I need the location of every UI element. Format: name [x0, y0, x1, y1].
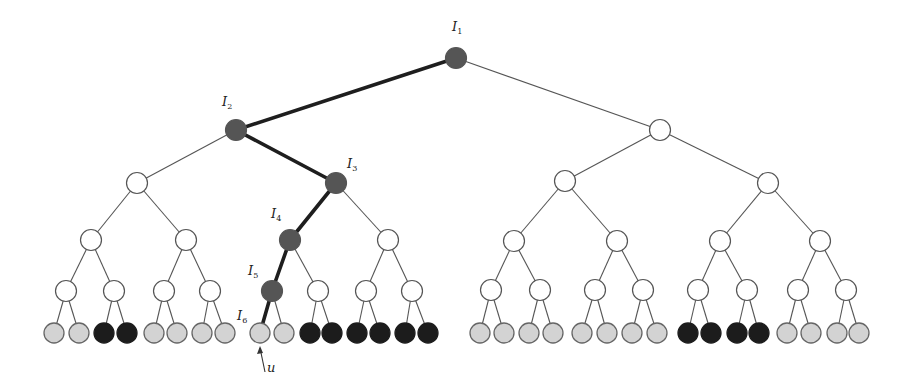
leaf-node-light	[144, 323, 164, 343]
leaf-node-light	[192, 323, 212, 343]
internal-node	[585, 280, 606, 301]
internal-node	[607, 231, 628, 252]
path-node	[226, 120, 247, 141]
tree-edge	[768, 183, 820, 241]
tree-edge	[137, 183, 186, 240]
internal-node	[356, 281, 377, 302]
leaf-node-light	[801, 323, 821, 343]
node-label-I1: I1	[451, 19, 462, 36]
internal-node	[154, 281, 175, 302]
path-node	[262, 281, 283, 302]
internal-node	[56, 281, 77, 302]
internal-node	[402, 281, 423, 302]
tree-edge	[565, 181, 617, 241]
leaf-node-dark	[322, 323, 342, 343]
leaf-node-dark	[370, 323, 390, 343]
leaf-node-light	[647, 323, 667, 343]
leaf-node-light	[250, 323, 270, 343]
internal-node	[530, 280, 551, 301]
leaf-node-light	[622, 323, 642, 343]
leaf-node-light	[827, 323, 847, 343]
leaf-node-dark	[300, 323, 320, 343]
arrowhead-icon	[257, 346, 263, 354]
tree-edge	[720, 183, 768, 241]
leaf-node-dark	[395, 323, 415, 343]
leaf-node-light	[470, 323, 490, 343]
internal-node	[104, 281, 125, 302]
internal-node	[308, 281, 329, 302]
internal-node	[176, 230, 197, 251]
node-label-I5: I5	[247, 263, 258, 280]
leaf-node-dark	[749, 323, 769, 343]
tree-diagram: I1I2I3I4I5I6 u	[0, 0, 912, 385]
internal-node	[688, 280, 709, 301]
leaf-node-dark	[117, 323, 137, 343]
leaf-node-light	[777, 323, 797, 343]
leaf-node-light	[572, 323, 592, 343]
leaf-node-light	[215, 323, 235, 343]
node-label-I2: I2	[221, 94, 232, 111]
leaf-node-light	[274, 323, 294, 343]
internal-node	[633, 280, 654, 301]
internal-node	[378, 230, 399, 251]
tree-leaves	[44, 323, 869, 343]
leaf-node-light	[519, 323, 539, 343]
leaf-node-dark	[727, 323, 747, 343]
leaf-node-light	[849, 323, 869, 343]
leaf-node-light	[167, 323, 187, 343]
tree-edge	[660, 130, 768, 183]
leaf-node-light	[597, 323, 617, 343]
tree-edge	[565, 130, 660, 181]
leaf-node-dark	[678, 323, 698, 343]
internal-node	[200, 281, 221, 302]
path-node	[280, 230, 301, 251]
path-node	[326, 173, 347, 194]
internal-node	[710, 231, 731, 252]
leaf-node-dark	[701, 323, 721, 343]
internal-node	[127, 173, 148, 194]
internal-node	[555, 171, 576, 192]
internal-node	[788, 280, 809, 301]
leaf-node-light	[494, 323, 514, 343]
path-node	[446, 48, 467, 69]
leaf-pointer-arrow: u	[257, 346, 275, 375]
internal-node	[758, 173, 779, 194]
leaf-node-dark	[347, 323, 367, 343]
pointer-label-u: u	[267, 360, 275, 375]
node-label-I4: I4	[270, 206, 281, 223]
tree-edge	[514, 181, 565, 241]
tree-edge	[336, 183, 388, 240]
internal-node	[481, 280, 502, 301]
leaf-node-light	[543, 323, 563, 343]
leaf-node-dark	[418, 323, 438, 343]
internal-node	[81, 230, 102, 251]
internal-node	[836, 280, 857, 301]
leaf-node-light	[69, 323, 89, 343]
internal-node	[504, 231, 525, 252]
leaf-node-light	[44, 323, 64, 343]
leaf-node-dark	[94, 323, 114, 343]
highlighted-path-edge	[236, 58, 456, 130]
tree-edge	[137, 130, 236, 183]
internal-node	[737, 280, 758, 301]
internal-node	[650, 120, 671, 141]
node-labels: I1I2I3I4I5I6	[221, 19, 462, 325]
node-label-I3: I3	[346, 156, 357, 173]
internal-node	[810, 231, 831, 252]
node-label-I6: I6	[236, 308, 247, 325]
tree-edge	[456, 58, 660, 130]
highlighted-path-edge	[236, 130, 336, 183]
